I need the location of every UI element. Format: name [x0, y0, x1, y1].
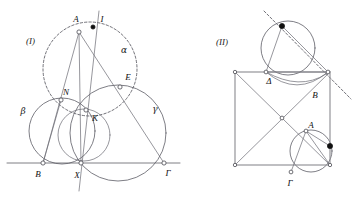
label-point-A: A: [72, 14, 79, 24]
point-E: [118, 85, 122, 89]
figure-two-group: (II) Δ B A Γ: [216, 11, 351, 188]
point-I: [91, 25, 95, 29]
point-B: [41, 161, 45, 165]
point-top-dot: [279, 23, 284, 28]
point-corner-tl: [233, 70, 236, 73]
label-point-K: K: [91, 113, 99, 123]
chord-top-dot-to-B: [282, 26, 328, 72]
chord-top-dot-to-Delta: [266, 26, 282, 72]
point-K: [84, 108, 88, 112]
point-right-edge-dot: [327, 143, 332, 148]
chord-A-to-right-dot: [306, 131, 330, 146]
point-Gamma: [289, 170, 293, 174]
tangent-dashed-line: [264, 11, 351, 99]
segment-A-X: [79, 32, 81, 163]
diagram-page: (I) A I E N K B X Γ α β γ: [0, 0, 363, 200]
label-point-Gamma: Γ: [164, 168, 171, 178]
point-N: [59, 98, 63, 102]
label-point-E: E: [124, 72, 131, 82]
point-corner-br: [328, 163, 331, 166]
figure-one-caption: (I): [26, 36, 35, 46]
label-point-I: I: [100, 14, 105, 24]
chord-A-to-Gamma: [291, 131, 306, 172]
point-corner-bl: [233, 163, 236, 166]
label-point-B: B: [35, 169, 41, 179]
point-X: [79, 161, 83, 165]
chord-A-to-corner-br: [306, 131, 330, 165]
point-Delta: [264, 70, 268, 74]
figure-two-caption: (II): [216, 37, 228, 47]
label-point-Gamma2: Γ: [286, 178, 293, 188]
label-point-B2: B: [312, 90, 318, 100]
label-point-Delta: Δ: [265, 76, 271, 86]
circle-alpha-dashed: [43, 22, 137, 116]
circle-small-through-K: [58, 109, 110, 161]
label-circle-beta: β: [19, 106, 25, 116]
label-point-N: N: [62, 87, 70, 97]
circle-bottom-right: [290, 130, 332, 172]
geometry-canvas: (I) A I E N K B X Γ α β γ: [0, 0, 363, 200]
label-point-X: X: [73, 170, 80, 180]
label-point-A2: A: [307, 120, 314, 130]
point-square-center: [280, 116, 284, 120]
point-Gamma: [162, 161, 166, 165]
label-circle-gamma: γ: [152, 104, 158, 114]
figure-one-group: (I) A I E N K B X Γ α β γ: [7, 11, 180, 191]
point-A: [77, 30, 81, 34]
point-B: [326, 70, 330, 74]
circle-gamma: [70, 85, 166, 181]
circle-top: [261, 21, 315, 75]
label-circle-alpha: α: [121, 45, 127, 55]
